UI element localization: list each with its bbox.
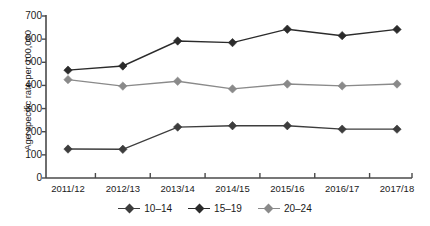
series-3 [64, 75, 401, 93]
data-point-marker [119, 82, 127, 90]
legend-label: 20–24 [284, 203, 312, 214]
legend-item[interactable]: 15–19 [188, 203, 242, 214]
series-2 [64, 25, 401, 74]
chart-legend: 10–1415–1920–24 [0, 203, 430, 214]
data-point-marker [173, 123, 181, 131]
legend-item[interactable]: 10–14 [118, 203, 172, 214]
data-point-marker [228, 121, 236, 129]
legend-item[interactable]: 20–24 [258, 203, 312, 214]
data-point-marker [283, 25, 291, 33]
data-point-marker [228, 38, 236, 46]
data-point-marker [64, 145, 72, 153]
data-point-marker [393, 125, 401, 133]
data-point-marker [338, 82, 346, 90]
data-point-marker [64, 75, 72, 83]
series-1 [64, 121, 401, 153]
data-point-marker [393, 25, 401, 33]
data-point-marker [119, 62, 127, 70]
data-point-marker [173, 37, 181, 45]
series-line [68, 29, 397, 70]
data-point-marker [393, 80, 401, 88]
data-point-marker [173, 77, 181, 85]
legend-marker-icon [188, 208, 210, 210]
legend-marker-icon [118, 208, 140, 210]
data-point-marker [64, 66, 72, 74]
legend-label: 10–14 [144, 203, 172, 214]
data-point-marker [283, 80, 291, 88]
plot-area [0, 0, 430, 226]
data-point-marker [119, 145, 127, 153]
legend-marker-icon [258, 208, 280, 210]
data-point-marker [228, 85, 236, 93]
chart-container: Age specific rate per 100,000 0100200300… [0, 0, 430, 226]
data-point-marker [283, 121, 291, 129]
data-point-marker [338, 31, 346, 39]
legend-label: 15–19 [214, 203, 242, 214]
data-point-marker [338, 125, 346, 133]
